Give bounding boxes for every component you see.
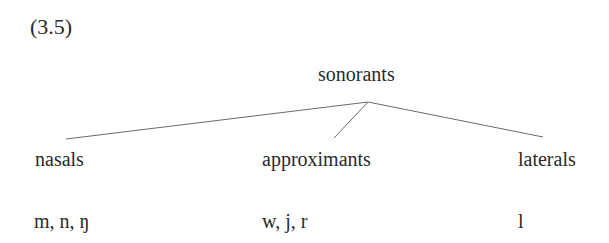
branch-laterals bbox=[368, 102, 543, 137]
members-nasals: m, n, ŋ bbox=[34, 211, 89, 231]
members-laterals: l bbox=[518, 211, 524, 231]
node-laterals: laterals bbox=[518, 149, 576, 169]
node-approximants: approximants bbox=[262, 149, 371, 169]
members-approximants: w, j, r bbox=[262, 211, 307, 231]
node-nasals: nasals bbox=[35, 149, 84, 169]
branch-approximants bbox=[334, 102, 368, 138]
branch-nasals bbox=[66, 102, 368, 139]
tree-branches bbox=[0, 0, 609, 243]
